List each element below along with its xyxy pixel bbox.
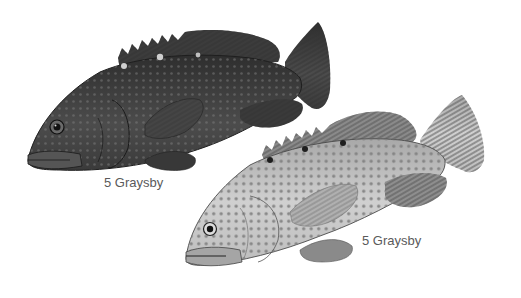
fish-label-dark: 5 Graysby xyxy=(104,175,163,190)
fish-illustration: 5 Graysby 5 Graysby xyxy=(0,0,521,298)
dark-graysby-drawing xyxy=(0,0,521,298)
fish-label-light: 5 Graysby xyxy=(362,233,421,248)
